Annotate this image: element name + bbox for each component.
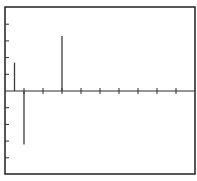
stems xyxy=(15,36,63,145)
stem-chart xyxy=(0,0,197,181)
